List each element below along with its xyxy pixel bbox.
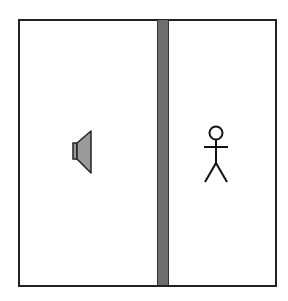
dividing-wall [157,20,169,285]
speaker-icon [70,128,96,176]
person-icon [200,120,232,186]
room-boundary [18,19,277,287]
